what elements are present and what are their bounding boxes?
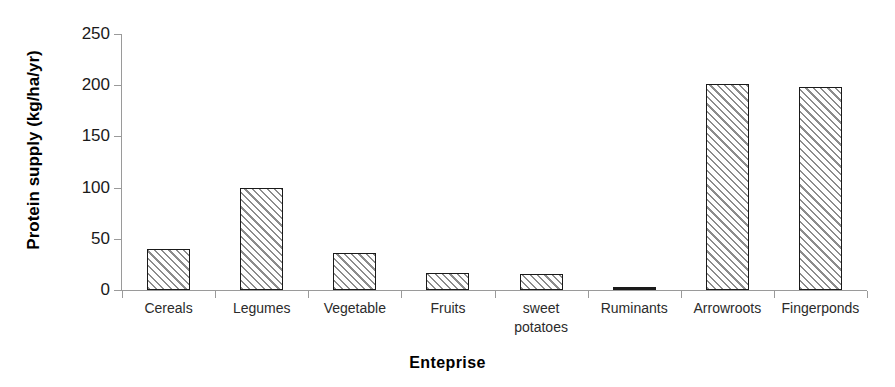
x-axis-tick	[867, 291, 868, 298]
bar-arrowroots	[706, 84, 749, 290]
y-axis-tick-label: 0	[12, 280, 122, 300]
y-axis-title: Protein supply (kg/ha/yr)	[14, 0, 54, 300]
x-axis-label-cereals: Cereals	[122, 299, 215, 318]
y-axis-tick-label: 200	[12, 75, 122, 95]
y-axis-tick-label: 250	[12, 24, 122, 44]
x-axis-label-arrowroots: Arrowroots	[681, 299, 774, 318]
x-axis-tick	[215, 291, 216, 298]
bar-ruminants	[613, 287, 656, 290]
y-axis-tick-label: 50	[12, 229, 122, 249]
bar-chart: Protein supply (kg/ha/yr) 05010015020025…	[0, 0, 895, 387]
x-axis-tick	[122, 291, 123, 298]
bar-legumes	[240, 188, 283, 290]
x-axis-title: Enteprise	[0, 354, 895, 372]
bar-vegetable	[333, 253, 376, 290]
x-axis-tick	[681, 291, 682, 298]
bar-fingerponds	[799, 87, 842, 290]
x-axis-tick	[495, 291, 496, 298]
bar-sweet-potatoes	[520, 274, 563, 290]
bar-cereals	[147, 249, 190, 290]
x-axis-label-vegetable: Vegetable	[308, 299, 401, 318]
bar-fruits	[426, 273, 469, 290]
x-axis-tick	[308, 291, 309, 298]
x-axis-label-fruits: Fruits	[401, 299, 494, 318]
y-axis-tick-label: 150	[12, 126, 122, 146]
x-axis-tick	[401, 291, 402, 298]
x-axis-tick	[774, 291, 775, 298]
x-axis-tick	[588, 291, 589, 298]
plot-area	[122, 34, 867, 290]
x-axis-label-fingerponds: Fingerponds	[774, 299, 867, 318]
y-axis-tick-label: 100	[12, 178, 122, 198]
x-axis-label-legumes: Legumes	[215, 299, 308, 318]
x-axis-label-sweet-potatoes: sweet potatoes	[495, 299, 588, 337]
x-axis-label-ruminants: Ruminants	[588, 299, 681, 318]
